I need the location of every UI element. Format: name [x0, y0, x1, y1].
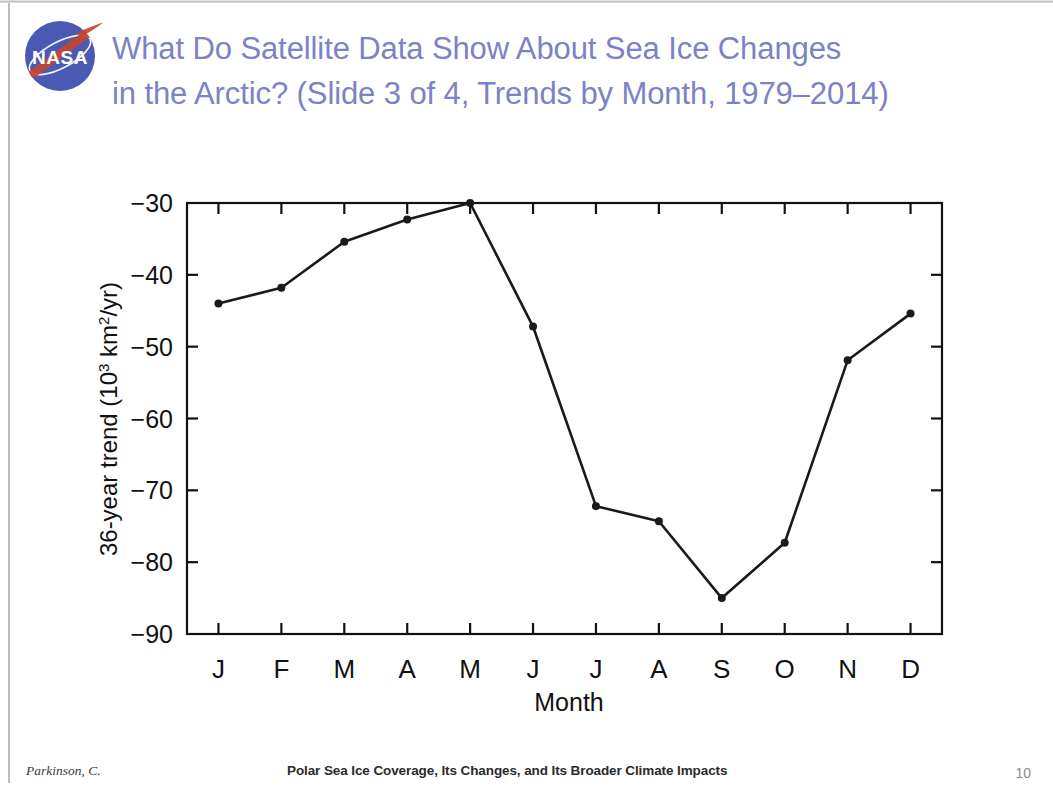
- nasa-logo-wordmark: NASA: [32, 47, 88, 68]
- y-tick-label: −60: [131, 405, 173, 433]
- data-point: [781, 539, 789, 547]
- x-tick-label: F: [273, 654, 289, 684]
- slide-header: NASA What Do Satellite Data Show About S…: [0, 6, 1053, 136]
- x-tick-label: J: [589, 654, 602, 684]
- y-tick-label: −30: [131, 189, 173, 217]
- x-axis-tick-labels: JFMAMJJASOND: [212, 654, 920, 684]
- x-tick-label: J: [212, 654, 225, 684]
- data-point: [718, 594, 726, 602]
- nasa-logo-svg: NASA: [18, 14, 102, 98]
- y-axis-title: 36-year trend (103 km2/yr): [95, 282, 123, 556]
- x-tick-label: O: [775, 654, 795, 684]
- y-tick-label: −50: [131, 333, 173, 361]
- x-tick-label: N: [838, 654, 857, 684]
- x-tick-label: M: [459, 654, 481, 684]
- data-point: [592, 502, 600, 510]
- page-title-line-1: What Do Satellite Data Show About Sea Ic…: [112, 26, 1012, 71]
- page-title: What Do Satellite Data Show About Sea Ic…: [112, 26, 1012, 116]
- page-title-line-2: in the Arctic? (Slide 3 of 4, Trends by …: [112, 71, 1012, 116]
- footer-page-number: 10: [1015, 765, 1031, 781]
- data-point: [466, 199, 474, 207]
- data-point: [907, 310, 915, 318]
- x-tick-label: A: [399, 654, 417, 684]
- x-axis-title: Month: [534, 688, 603, 716]
- data-point: [340, 238, 348, 246]
- y-tick-label: −70: [131, 476, 173, 504]
- slide-edge-top: [0, 0, 1053, 3]
- y-tick-label: −40: [131, 261, 173, 289]
- data-point: [403, 216, 411, 224]
- chart-container: −30−40−50−60−70−80−90 JFMAMJJASOND Month…: [0, 140, 1053, 740]
- x-tick-label: J: [527, 654, 540, 684]
- slide-footer: Parkinson, C. Polar Sea Ice Coverage, It…: [0, 745, 1053, 796]
- data-point: [214, 300, 222, 308]
- y-tick-label: −80: [131, 548, 173, 576]
- y-axis-tick-labels: −30−40−50−60−70−80−90: [131, 189, 173, 648]
- x-tick-label: D: [901, 654, 920, 684]
- x-tick-label: A: [650, 654, 668, 684]
- y-tick-label: −90: [131, 620, 173, 648]
- data-point: [844, 356, 852, 364]
- footer-presentation-title: Polar Sea Ice Coverage, Its Changes, and…: [287, 763, 727, 778]
- footer-author: Parkinson, C.: [26, 763, 101, 779]
- line-chart: −30−40−50−60−70−80−90 JFMAMJJASOND Month…: [0, 140, 1053, 740]
- nasa-meatball-logo: NASA: [18, 14, 102, 98]
- x-tick-label: S: [713, 654, 730, 684]
- x-tick-label: M: [333, 654, 355, 684]
- slide-canvas: NASA What Do Satellite Data Show About S…: [0, 0, 1053, 796]
- data-point: [529, 323, 537, 331]
- data-point: [277, 284, 285, 292]
- data-point: [655, 517, 663, 525]
- data-series-line: [218, 203, 910, 598]
